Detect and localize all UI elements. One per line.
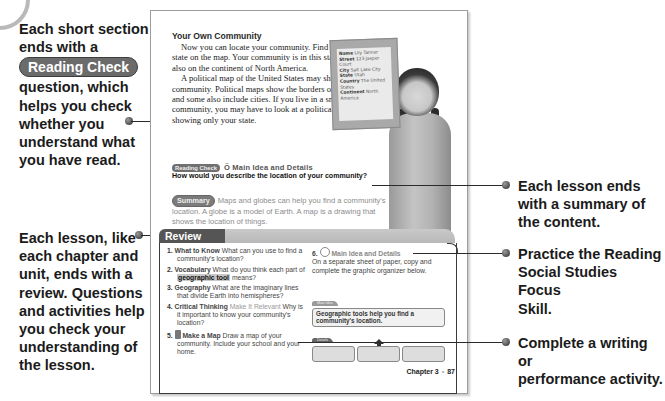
- review-question-6: 6. Main Idea and Details On a separate s…: [312, 247, 448, 275]
- sign-label: Street: [339, 56, 355, 62]
- callout-text: Practice the Reading: [518, 245, 663, 263]
- map-activity-icon: [175, 330, 181, 339]
- review-question-2: 2. Vocabulary What do you think each par…: [167, 266, 307, 283]
- callout-focus-skill: Practice the Reading Social Studies Focu…: [518, 245, 663, 318]
- sign-label: Continent: [340, 89, 364, 95]
- callout-text: Complete a writing or: [518, 334, 665, 370]
- review-question-4: 4. Critical Thinking Make It Relevant Wh…: [167, 303, 307, 328]
- question-number: 2.: [167, 266, 173, 273]
- graphic-organizer: Main Idea Geographic tools help you find…: [312, 290, 445, 362]
- reading-check-row: Reading Check Ö Main Idea and Details: [172, 163, 313, 172]
- callout-text: you have read.: [19, 151, 159, 169]
- question-text: On a separate sheet of paper, copy and c…: [312, 258, 431, 273]
- reading-check-badge: Reading Check: [172, 164, 220, 172]
- question-label: Vocabulary: [175, 266, 211, 273]
- question-number: 5.: [167, 332, 173, 339]
- textbook-page: Your Own Community Now you can locate yo…: [150, 10, 468, 394]
- question-text: means?: [232, 274, 256, 281]
- chapter-label: Chapter 3: [406, 368, 438, 375]
- callout-text: you check your: [19, 320, 159, 338]
- arrow-stem: [377, 343, 381, 346]
- callout-text: the lesson.: [19, 356, 159, 374]
- focus-skill-label: Ö Main Idea and Details: [224, 163, 313, 172]
- vocabulary-term: geographic tool: [177, 274, 230, 281]
- callout-dot-icon: [502, 181, 510, 189]
- reading-check-pill: Reading Check: [19, 57, 138, 77]
- review-header-bar: [219, 229, 455, 244]
- page-number: 87: [447, 368, 455, 375]
- callout-connector-line: [372, 185, 503, 186]
- callout-text: and activities help: [19, 302, 159, 320]
- callout-connector-line: [413, 253, 503, 254]
- callout-text: ends with a: [19, 38, 159, 56]
- callout-dot-icon: [502, 249, 510, 257]
- callout-text: the content.: [518, 213, 663, 231]
- callout-summary: Each lesson ends with a summary of the c…: [518, 177, 663, 232]
- girl-holding-sign-photo: Name Lily Tanner Street 123 Jasper Court…: [329, 23, 457, 253]
- main-idea-label: Main Idea: [312, 301, 338, 306]
- question-number: 1.: [167, 247, 173, 254]
- callout-text: review. Questions: [19, 284, 159, 302]
- callout-text: Each lesson ends: [518, 177, 663, 195]
- girl-head: [395, 68, 439, 116]
- callout-text: question, which: [19, 78, 159, 96]
- detail-box: [312, 346, 355, 362]
- detail-box: [402, 346, 445, 362]
- details-row: [312, 346, 445, 362]
- review-question-5: 5. Make a Map Draw a map of your communi…: [167, 330, 307, 357]
- callout-text: whether you: [19, 115, 159, 133]
- section-title: Your Own Community: [172, 31, 262, 41]
- sign-label: Country: [340, 78, 360, 84]
- sign-label: City: [339, 67, 349, 72]
- main-idea-box: Geographic tools help you find a communi…: [312, 308, 445, 327]
- question-number: 3.: [167, 284, 173, 291]
- callout-text: understanding of: [19, 338, 159, 356]
- callout-text: helps you check: [19, 97, 159, 115]
- question-label: Geography: [175, 284, 211, 291]
- detail-box: [357, 346, 400, 362]
- callout-dot-icon: [502, 338, 510, 346]
- question-sublabel: Make It Relevant: [230, 303, 281, 310]
- callout-review: Each lesson, like each chapter and unit,…: [19, 229, 159, 375]
- question-label: Make a Map: [182, 332, 220, 339]
- review-questions: 1. What to Know What can you use to find…: [167, 247, 307, 359]
- callout-text: Social Studies Focus: [518, 263, 663, 299]
- callout-text: understand what: [19, 133, 159, 151]
- question-text: What do you think each part of: [213, 266, 305, 273]
- callout-text: each chapter and: [19, 247, 159, 265]
- focus-skill-label: Main Idea and Details: [331, 250, 400, 257]
- review-title: Review: [159, 229, 225, 244]
- review-question-1: 1. What to Know What can you use to find…: [167, 247, 307, 264]
- callout-text: Skill.: [518, 300, 663, 318]
- separator: •: [442, 368, 444, 375]
- review-question-3: 3. Geography What are the imaginary line…: [167, 284, 307, 301]
- summary-badge: Summary: [172, 195, 215, 207]
- callout-text: performance activity.: [518, 370, 665, 388]
- question-number: 6.: [312, 250, 318, 257]
- callout-activity: Complete a writing or performance activi…: [518, 334, 665, 389]
- callout-reading-check: Each short section ends with a Reading C…: [19, 20, 159, 169]
- sign-value: Utah: [354, 72, 365, 77]
- question-label: Critical Thinking: [175, 303, 228, 310]
- page-footer: Chapter 3•87: [406, 368, 455, 375]
- address-sign-text: Name Lily Tanner Street 123 Jasper Court…: [337, 47, 393, 121]
- callout-connector-line: [298, 342, 503, 343]
- callout-text: unit, ends with a: [19, 265, 159, 283]
- sign-value: Salt Lake City: [351, 66, 381, 72]
- callout-text: with a summary of: [518, 195, 663, 213]
- address-sign: Name Lily Tanner Street 123 Jasper Court…: [329, 38, 400, 130]
- question-number: 4.: [167, 303, 173, 310]
- callout-text: Each short section: [19, 20, 159, 38]
- question-label: What to Know: [175, 247, 220, 254]
- focus-skill-text: Main Idea and Details: [232, 163, 312, 172]
- focus-skill-icon: [320, 247, 330, 257]
